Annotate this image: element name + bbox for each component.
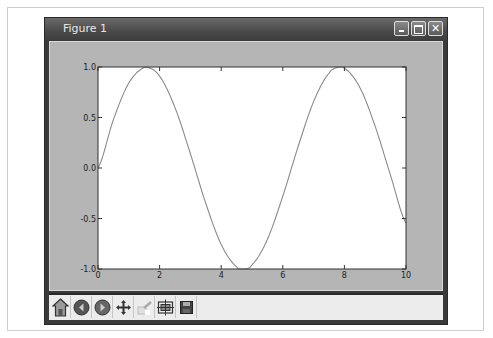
x-tick-label: 2 <box>157 271 162 280</box>
back-icon <box>73 299 90 316</box>
home-icon <box>52 298 69 317</box>
back-button[interactable] <box>71 296 92 318</box>
zoom-to-rect-button[interactable] <box>134 296 155 318</box>
pan-button[interactable] <box>113 296 134 318</box>
subplots-icon <box>157 299 174 316</box>
minimize-icon <box>399 30 404 32</box>
y-tick-label: 0.5 <box>83 114 96 123</box>
save-button[interactable] <box>176 296 197 318</box>
home-button[interactable] <box>50 296 71 318</box>
minimize-button[interactable] <box>394 21 409 36</box>
zoom-icon <box>136 299 153 316</box>
navigation-toolbar <box>49 293 443 320</box>
figure-canvas[interactable]: 02468101.00.50.0-0.5-1.0 <box>49 41 443 291</box>
y-tick-label: -0.5 <box>80 215 96 224</box>
y-tick-label: 1.0 <box>83 63 96 72</box>
maximize-icon <box>414 25 423 34</box>
x-tick-label: 8 <box>342 271 347 280</box>
save-icon <box>178 299 195 316</box>
x-tick-label: 6 <box>280 271 285 280</box>
close-button[interactable]: ✕ <box>428 21 443 36</box>
maximize-button[interactable] <box>411 21 426 36</box>
x-tick-label: 10 <box>401 271 411 280</box>
window-title: Figure 1 <box>63 22 107 35</box>
configure-subplots-button[interactable] <box>155 296 176 318</box>
forward-button[interactable] <box>92 296 113 318</box>
close-icon: ✕ <box>431 22 440 35</box>
y-tick-label: 0.0 <box>83 164 96 173</box>
plot-area <box>98 67 406 269</box>
sine-chart: 02468101.00.50.0-0.5-1.0 <box>50 42 442 290</box>
x-tick-label: 4 <box>219 271 224 280</box>
forward-icon <box>94 299 111 316</box>
title-bar[interactable]: Figure 1 ✕ <box>45 18 447 40</box>
x-tick-label: 0 <box>95 271 100 280</box>
y-tick-label: -1.0 <box>80 265 96 274</box>
figure-window: Figure 1 ✕ 02468101.00.50.0-0.5-1.0 <box>44 17 448 325</box>
pan-icon <box>115 299 132 316</box>
